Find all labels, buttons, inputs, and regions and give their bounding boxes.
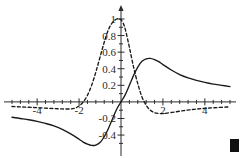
black-square-marker [230, 139, 239, 152]
y-tick-label: 0.2 [102, 79, 116, 91]
y-axis-arrow-icon [118, 5, 123, 11]
y-tick-label: -0.2 [99, 112, 116, 124]
y-tick-label: 0.6 [102, 46, 116, 58]
plot-figure: -4-22410.80.60.40.2-0.2-0.4 [0, 0, 242, 158]
x-tick-label: 4 [202, 104, 208, 116]
plot-canvas: -4-22410.80.60.40.2-0.2-0.4 [0, 0, 242, 158]
y-tick-label: 0.8 [102, 30, 116, 42]
x-tick-label: -4 [33, 104, 43, 116]
y-tick-label: 0.4 [102, 63, 116, 75]
